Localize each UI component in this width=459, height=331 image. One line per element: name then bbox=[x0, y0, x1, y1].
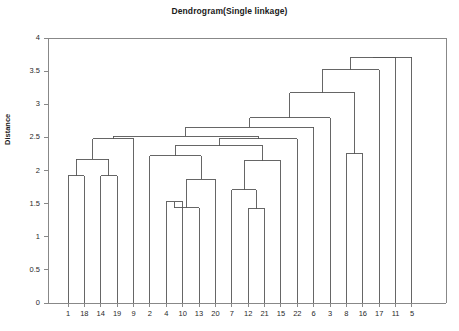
axes-group bbox=[44, 38, 446, 307]
dendrogram-chart: Dendrogram(Single linkage) Distance 00.5… bbox=[0, 0, 459, 331]
dendrogram-plot-area bbox=[0, 0, 459, 331]
dendrogram-tree bbox=[68, 57, 412, 303]
